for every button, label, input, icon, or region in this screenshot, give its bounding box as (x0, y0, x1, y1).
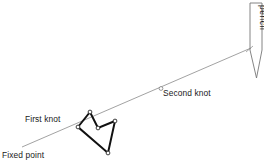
knot-node (96, 126, 100, 130)
knot-node (88, 110, 92, 114)
label-pencil: pencil (258, 5, 265, 30)
knot-node (113, 119, 117, 123)
knot-string-diagram: Fixed point First knot Second knot penci… (0, 0, 264, 164)
label-second-knot: Second knot (163, 88, 211, 98)
pencil-contact-mark (246, 46, 253, 52)
label-fixed-point: Fixed point (2, 150, 45, 160)
knot-node (106, 151, 110, 155)
string-line (22, 48, 251, 147)
knot-node (76, 125, 80, 129)
first-knot-loop (78, 112, 115, 153)
label-first-knot: First knot (25, 114, 61, 124)
pencil-tip (250, 50, 262, 78)
